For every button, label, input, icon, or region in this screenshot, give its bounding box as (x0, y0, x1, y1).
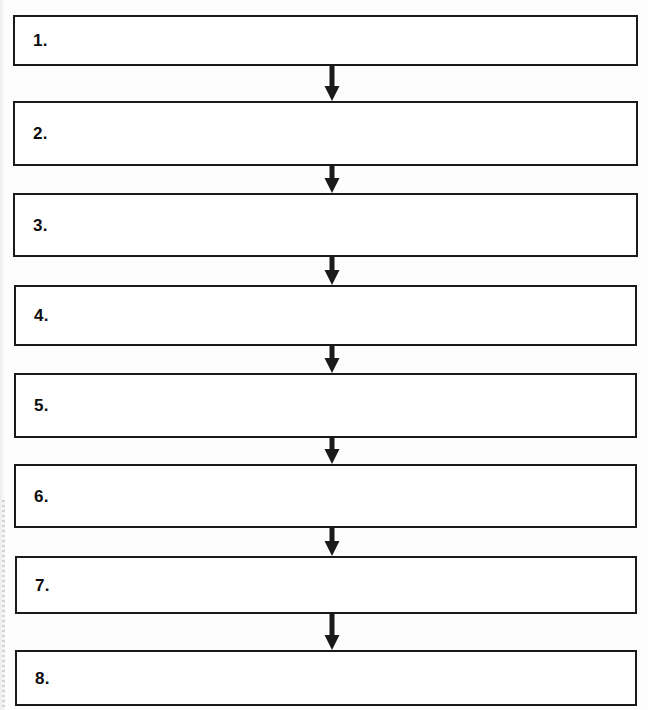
down-arrow-icon (322, 166, 342, 193)
flowchart-step-box[interactable]: 7. (15, 556, 637, 614)
flowchart-step-box[interactable]: 3. (13, 193, 638, 257)
down-arrow-icon (322, 257, 342, 285)
flowchart-step-box[interactable]: 4. (14, 285, 637, 346)
flowchart-step-box[interactable]: 5. (14, 373, 637, 438)
scan-edge-artifact-lower (2, 500, 5, 710)
flowchart-step-box[interactable]: 8. (15, 650, 637, 706)
down-arrow-icon (322, 66, 342, 101)
down-arrow-icon (322, 614, 342, 650)
flowchart-step-box[interactable]: 6. (14, 464, 637, 528)
flowchart-canvas: 1. 2. 3. 4. 5. 6. 7. 8. (0, 0, 648, 710)
step-number-label: 3. (33, 217, 48, 234)
step-number-label: 8. (35, 670, 50, 687)
step-number-label: 4. (34, 307, 49, 324)
down-arrow-icon (322, 346, 342, 373)
step-number-label: 5. (34, 397, 49, 414)
step-number-label: 1. (33, 32, 48, 49)
step-number-label: 7. (35, 577, 50, 594)
step-number-label: 6. (34, 488, 49, 505)
down-arrow-icon (322, 438, 342, 464)
flowchart-step-box[interactable]: 2. (13, 101, 638, 166)
step-number-label: 2. (33, 125, 48, 142)
down-arrow-icon (322, 528, 342, 556)
flowchart-step-box[interactable]: 1. (13, 15, 638, 66)
